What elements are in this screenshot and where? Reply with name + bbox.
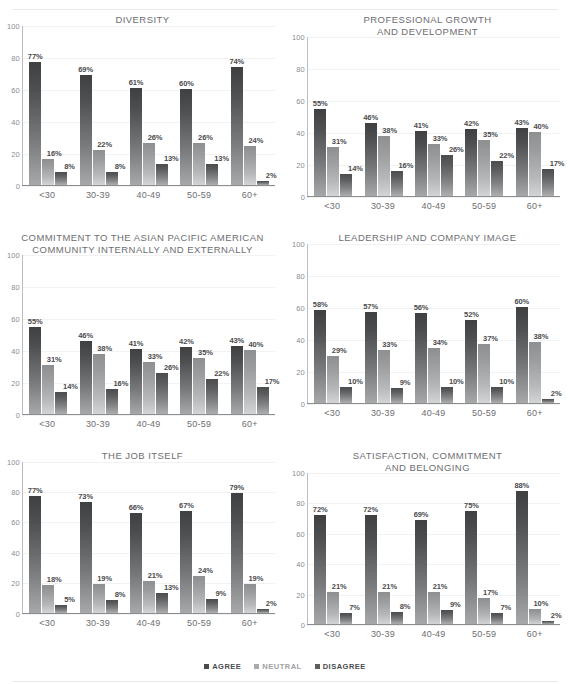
bar-neutral[interactable]: 21% [378, 592, 390, 624]
bar-neutral[interactable]: 24% [193, 576, 205, 612]
bar-disagree[interactable]: 10% [491, 387, 503, 403]
bar-disagree[interactable]: 17% [542, 169, 554, 196]
bar-neutral[interactable]: 21% [143, 581, 155, 613]
bar-disagree[interactable]: 16% [106, 389, 118, 414]
bar-disagree[interactable]: 2% [257, 609, 269, 612]
bar-disagree[interactable]: 13% [206, 164, 218, 185]
bar-disagree[interactable]: 9% [441, 610, 453, 624]
bar-agree[interactable]: 55% [29, 327, 41, 414]
bar-neutral[interactable]: 24% [244, 146, 256, 184]
bar-agree[interactable]: 72% [314, 515, 326, 624]
bar-disagree[interactable]: 8% [391, 612, 403, 624]
bar-agree[interactable]: 46% [365, 123, 377, 196]
bar-neutral[interactable]: 33% [143, 362, 155, 414]
bar-disagree[interactable]: 2% [542, 399, 554, 402]
bar-agree[interactable]: 42% [180, 347, 192, 414]
bar-agree[interactable]: 77% [29, 496, 41, 612]
bar-neutral[interactable]: 37% [478, 344, 490, 403]
plot-area: 77%16%8%69%22%8%61%26%13%60%26%13%74%24%… [22, 26, 275, 186]
bar-neutral[interactable]: 26% [193, 143, 205, 184]
bar-agree[interactable]: 67% [180, 511, 192, 612]
bar-neutral[interactable]: 16% [42, 159, 54, 184]
legend-item[interactable]: DISAGREE [315, 662, 366, 671]
bar-agree[interactable]: 57% [365, 312, 377, 403]
y-axis-tick: 60 [11, 85, 20, 94]
bar-neutral[interactable]: 33% [428, 144, 440, 196]
bar-disagree[interactable]: 9% [206, 599, 218, 613]
bar-neutral[interactable]: 29% [327, 356, 339, 402]
bar-neutral[interactable]: 18% [42, 585, 54, 612]
bar-agree[interactable]: 77% [29, 62, 41, 184]
bar-agree[interactable]: 43% [231, 346, 243, 414]
bar-agree[interactable]: 88% [516, 491, 528, 624]
bar-agree[interactable]: 58% [314, 310, 326, 402]
bar-neutral[interactable]: 21% [327, 592, 339, 624]
bar-agree[interactable]: 56% [415, 313, 427, 402]
bar-disagree[interactable]: 7% [491, 613, 503, 624]
bar-neutral[interactable]: 40% [244, 350, 256, 414]
bar-neutral[interactable]: 17% [478, 598, 490, 624]
bar-disagree[interactable]: 8% [55, 172, 67, 185]
bar-neutral[interactable]: 38% [93, 354, 105, 414]
bar-agree[interactable]: 69% [415, 520, 427, 624]
bar-neutral[interactable]: 33% [378, 350, 390, 402]
bar-disagree[interactable]: 26% [441, 155, 453, 196]
bar-agree[interactable]: 46% [80, 341, 92, 414]
bar-disagree[interactable]: 10% [340, 387, 352, 403]
bar-neutral[interactable]: 38% [529, 342, 541, 402]
bar-agree[interactable]: 42% [465, 129, 477, 196]
bar-disagree[interactable]: 22% [491, 161, 503, 196]
bar-disagree[interactable]: 2% [257, 181, 269, 184]
bar-neutral[interactable]: 10% [529, 609, 541, 624]
bar-disagree[interactable]: 17% [257, 387, 269, 414]
bar-disagree[interactable]: 14% [55, 392, 67, 414]
bar-neutral[interactable]: 19% [244, 584, 256, 613]
bar-agree[interactable]: 69% [80, 75, 92, 185]
bar-agree[interactable]: 72% [365, 515, 377, 624]
bar-neutral[interactable]: 22% [93, 150, 105, 185]
bar-neutral[interactable]: 19% [93, 584, 105, 613]
bar-agree[interactable]: 73% [80, 502, 92, 612]
bar-disagree[interactable]: 14% [340, 174, 352, 196]
bar-disagree[interactable]: 13% [156, 593, 168, 613]
bar-neutral[interactable]: 21% [428, 592, 440, 624]
bar-agree[interactable]: 75% [465, 511, 477, 624]
bar-disagree[interactable]: 2% [542, 621, 554, 624]
bar-disagree[interactable]: 26% [156, 373, 168, 414]
bar-disagree[interactable]: 8% [106, 600, 118, 612]
bar-agree[interactable]: 61% [130, 88, 142, 185]
x-axis-tick: 60+ [509, 201, 560, 211]
bar-neutral[interactable]: 35% [193, 358, 205, 414]
bar-agree[interactable]: 79% [231, 493, 243, 612]
legend-item[interactable]: AGREE [204, 662, 241, 671]
bar-agree[interactable]: 43% [516, 128, 528, 196]
bar-neutral[interactable]: 26% [143, 143, 155, 184]
bar-neutral[interactable]: 31% [42, 365, 54, 414]
bar-agree[interactable]: 60% [180, 89, 192, 184]
bar-neutral[interactable]: 31% [327, 147, 339, 196]
legend-label: DISAGREE [323, 662, 366, 671]
bar-agree[interactable]: 41% [130, 349, 142, 414]
bar-disagree[interactable]: 5% [55, 605, 67, 613]
bar-agree[interactable]: 52% [465, 320, 477, 403]
bar-disagree[interactable]: 16% [391, 171, 403, 196]
bar-disagree[interactable]: 9% [391, 388, 403, 402]
bar-disagree[interactable]: 22% [206, 379, 218, 414]
bar-agree[interactable]: 66% [130, 513, 142, 613]
bar-neutral[interactable]: 35% [478, 140, 490, 196]
bar-value-label: 21% [148, 571, 163, 580]
bar-agree[interactable]: 74% [231, 67, 243, 185]
bar-neutral[interactable]: 38% [378, 136, 390, 196]
bar-agree[interactable]: 55% [314, 109, 326, 196]
bar-neutral[interactable]: 34% [428, 348, 440, 402]
bar-disagree[interactable]: 13% [156, 164, 168, 185]
legend-item[interactable]: NEUTRAL [254, 662, 301, 671]
bar-disagree[interactable]: 8% [106, 172, 118, 185]
bar-disagree[interactable]: 7% [340, 613, 352, 624]
bar-value-label: 72% [313, 505, 328, 514]
bar-disagree[interactable]: 10% [441, 387, 453, 403]
bar-neutral[interactable]: 40% [529, 132, 541, 196]
bar-value-label: 42% [179, 337, 194, 346]
bar-agree[interactable]: 60% [516, 307, 528, 402]
bar-agree[interactable]: 41% [415, 131, 427, 196]
